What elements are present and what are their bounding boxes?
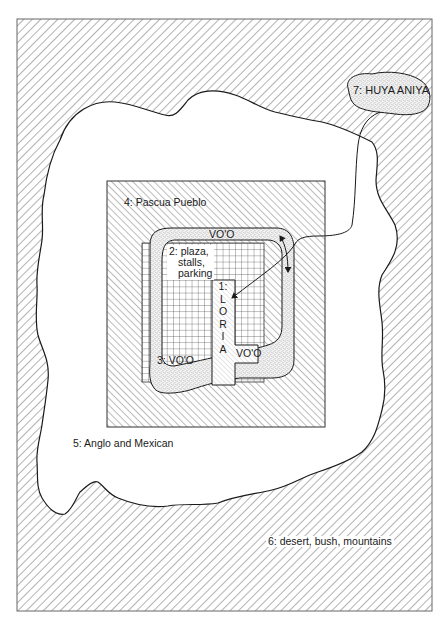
label-voo-inner: VO'O — [236, 348, 261, 359]
label-loria-letter-o: O — [217, 305, 229, 318]
label-pascua-pueblo: 4: Pascua Pueblo — [124, 197, 206, 208]
label-anglo-mexican: 5: Anglo and Mexican — [73, 438, 173, 449]
label-plaza-line-3: parking — [169, 268, 212, 279]
label-plaza: 2: plaza, stalls, parking — [167, 245, 214, 280]
label-loria-letter-i: I — [217, 330, 229, 343]
label-loria-letter-l: L — [217, 293, 229, 306]
label-voo-top: VO'O — [207, 229, 236, 240]
label-loria-letter-a: A — [217, 343, 229, 356]
label-voo-zone-3: 3: VO'O — [157, 355, 194, 366]
label-huya-aniya: 7: HUYA ANIYA — [353, 85, 429, 97]
label-loria: 1: L O R I A — [217, 280, 229, 355]
label-desert: 6: desert, bush, mountains — [266, 536, 394, 547]
label-loria-number: 1: — [217, 280, 229, 293]
label-loria-letter-r: R — [217, 318, 229, 331]
